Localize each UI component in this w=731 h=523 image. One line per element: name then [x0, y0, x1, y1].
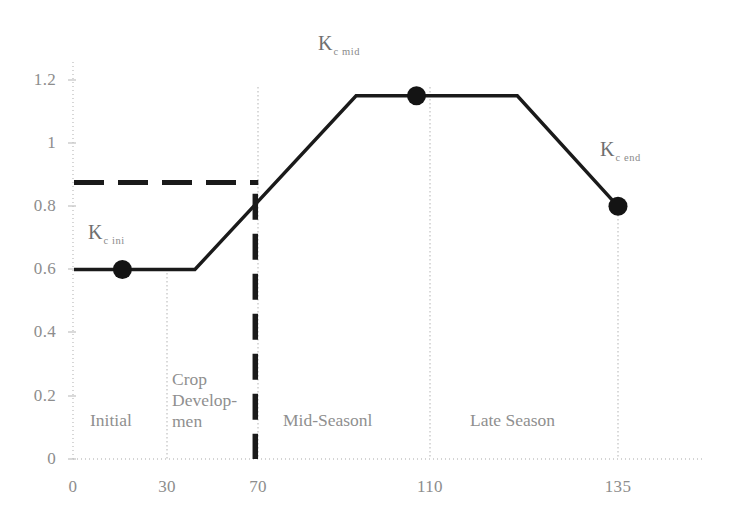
- stage-label-initial: Initial: [90, 410, 132, 431]
- x-tick-70: 70: [238, 477, 278, 497]
- x-tick-0: 0: [53, 477, 93, 497]
- kc-curve: [74, 96, 618, 270]
- stage-label-late-season: Late Season: [470, 410, 555, 431]
- kc-ini-subscript: c ini: [103, 235, 124, 246]
- chart-canvas: [0, 0, 731, 523]
- kc-end-subscript: c end: [615, 152, 640, 163]
- y-tick-0-6: 0.6: [8, 259, 56, 279]
- kc-mid-subscript: c mid: [333, 46, 360, 57]
- y-tick-1: 1: [8, 133, 56, 153]
- y-tick-0: 0: [8, 449, 56, 469]
- marker-kc-mid: [407, 86, 426, 105]
- crop-development-line-2: Develop-: [172, 390, 237, 410]
- y-tick-0-4: 0.4: [8, 322, 56, 342]
- x-tick-30: 30: [147, 477, 187, 497]
- marker-kc-ini: [113, 260, 132, 279]
- crop-development-line-1: Crop: [172, 369, 207, 389]
- annotation-kc-end: Kc end: [600, 138, 641, 163]
- stage-label-crop-development: Crop Develop- men: [172, 369, 234, 432]
- annotation-kc-ini: Kc ini: [88, 221, 125, 246]
- crop-coefficient-chart: 1.2 1 0.8 0.6 0.4 0.2 0 0 30 70 110 135 …: [0, 0, 731, 523]
- stage-label-mid-season: Mid-Seasonl: [283, 410, 372, 431]
- annotation-kc-mid: Kc mid: [318, 32, 360, 57]
- y-tick-0-2: 0.2: [8, 386, 56, 406]
- marker-kc-end: [609, 197, 628, 216]
- y-tick-0-8: 0.8: [8, 196, 56, 216]
- crop-development-line-3: men: [172, 411, 202, 431]
- x-tick-110: 110: [410, 477, 450, 497]
- kc-ini-base: K: [88, 221, 102, 243]
- y-tick-1-2: 1.2: [8, 70, 56, 90]
- kc-end-base: K: [600, 138, 614, 160]
- x-tick-135: 135: [598, 477, 638, 497]
- kc-mid-base: K: [318, 32, 332, 54]
